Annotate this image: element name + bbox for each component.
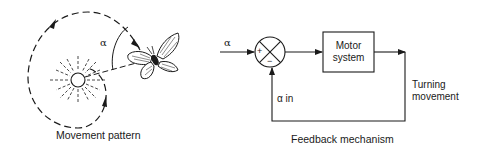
- feedback-mechanism-caption: Feedback mechanism: [291, 133, 394, 145]
- turning-movement-label-line2: movement: [412, 91, 459, 103]
- turning-movement-label-line1: Turning: [412, 79, 446, 91]
- spiral-path: [28, 12, 140, 128]
- motor-system-label-line1: Motor: [323, 40, 374, 52]
- motor-system-label-line2: system: [323, 52, 374, 64]
- butterfly-icon: [128, 33, 179, 79]
- comparator-minus-sign: −: [267, 55, 272, 67]
- feedback-alpha-in-label: α in: [277, 93, 293, 105]
- movement-pattern-caption: Movement pattern: [56, 129, 141, 141]
- comparator-plus-sign: +: [257, 45, 262, 57]
- angle-arc: [112, 27, 128, 70]
- feedback-block-diagram: [220, 32, 405, 121]
- arrow-icon: [131, 39, 140, 48]
- movement-pattern-figure: [28, 12, 179, 128]
- arrow-icon: [49, 19, 56, 29]
- diagram-canvas: [0, 0, 483, 146]
- input-alpha-label: α: [224, 37, 231, 49]
- angle-alpha-label: α: [100, 37, 107, 49]
- light-source-icon: [50, 56, 106, 104]
